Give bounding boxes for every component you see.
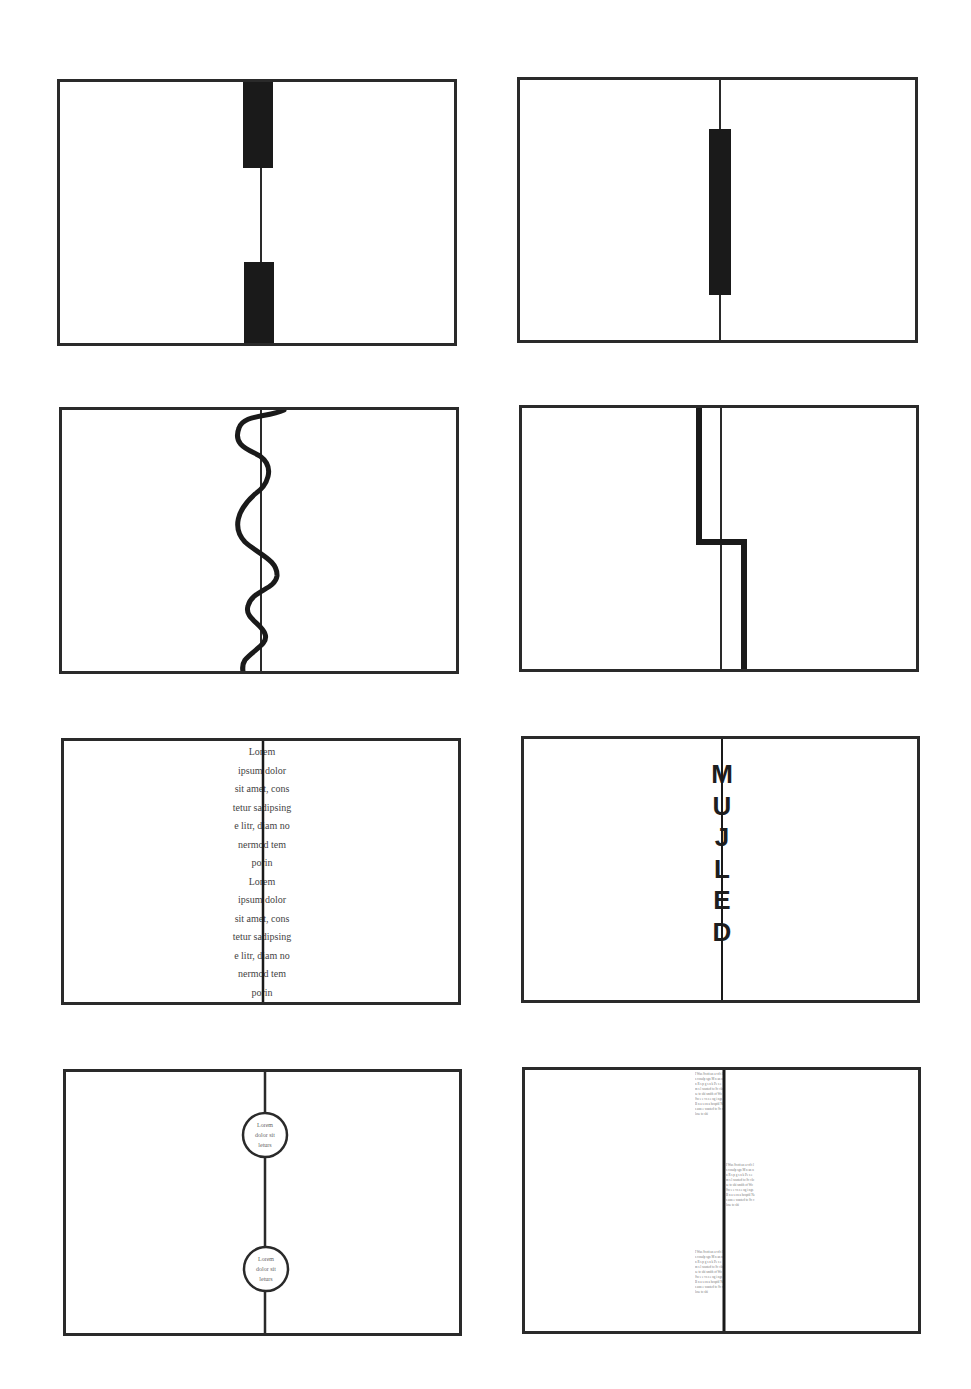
panel-6-center-line: [524, 739, 920, 1003]
label-line: Lorem: [243, 1120, 287, 1130]
panel-4-stepped-line: [519, 405, 919, 672]
circle-2-label: Lorem dolor sit leturs: [244, 1254, 288, 1284]
center-bar: [709, 129, 731, 295]
label-line: dolor sit: [243, 1130, 287, 1140]
label-line: Lorem: [244, 1254, 288, 1264]
panel-6-vertical-letters: M U J L E D: [521, 736, 920, 1003]
label-line: leturs: [243, 1140, 287, 1150]
panel-8-text-columns: I Was Scott an a vd t ls cosulp sgn M n …: [522, 1067, 921, 1334]
panel-1-two-blocks: [57, 79, 457, 346]
panel-5-center-line: [64, 741, 461, 1005]
panel-7-graphic: [66, 1072, 462, 1336]
panel-2-graphic: [520, 80, 918, 343]
bottom-block: [244, 262, 274, 346]
label-line: dolor sit: [244, 1264, 288, 1274]
panel-2-single-bar: [517, 77, 918, 343]
panel-8-center-line: [525, 1070, 921, 1334]
panel-7-circles-on-line: Lorem dolor sit leturs Lorem dolor sit l…: [63, 1069, 462, 1336]
circle-1-label: Lorem dolor sit leturs: [243, 1120, 287, 1150]
panel-3-graphic: [62, 410, 459, 674]
panel-4-graphic: [522, 408, 919, 672]
top-block: [243, 82, 273, 168]
panel-1-graphic: [60, 82, 457, 346]
panel-5-text-over-line: Lorem ipsum dolor sit amet, cons tetur s…: [61, 738, 461, 1005]
panel-3-wavy-line: [59, 407, 459, 674]
label-line: leturs: [244, 1274, 288, 1284]
